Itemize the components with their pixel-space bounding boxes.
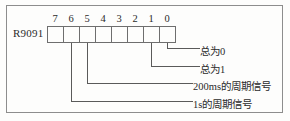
annotation-bit-6: 1s的周期信号 [193,96,252,111]
bit-number-6: 6 [63,13,79,24]
annotation-bit-1: 总为1 [200,61,225,76]
bit-number-2: 2 [127,13,143,24]
register-label: R9091 [13,27,43,39]
bit-number-4: 4 [95,13,111,24]
bit-number-3: 3 [111,13,127,24]
bit-number-7: 7 [47,13,63,24]
diagram-canvas: R9091 7 6 5 4 3 2 1 0 总为0 总为1 200ms的周期信号… [0,0,290,121]
annotation-bit-0: 总为0 [200,43,225,58]
bit-number-0: 0 [159,13,175,24]
bit-number-1: 1 [143,13,159,24]
bit-number-5: 5 [79,13,95,24]
annotation-bit-5: 200ms的周期信号 [193,78,271,93]
